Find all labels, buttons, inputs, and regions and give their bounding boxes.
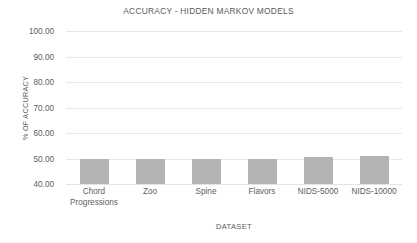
y-axis-tick-label: 40.00: [34, 180, 55, 189]
bar-slot: [346, 31, 402, 184]
y-axis-tick-label: 100.00: [29, 27, 54, 36]
bar-slot: [234, 31, 290, 184]
x-axis-tick-label: Zoo: [122, 187, 178, 208]
y-axis-tick-label: 70.00: [34, 103, 55, 112]
bar-slot: [178, 31, 234, 184]
bar-series: [66, 31, 402, 184]
y-axis-tick-label: 50.00: [34, 154, 55, 163]
x-axis-tick-label: NIDS-10000: [346, 187, 402, 208]
x-axis-tick-label: Spine: [178, 187, 234, 208]
x-axis-tick-labels: Chord ProgressionsZooSpineFlavorsNIDS-50…: [66, 187, 402, 208]
chart-title: ACCURACY - HIDDEN MARKOV MODELS: [0, 6, 417, 16]
y-axis-tick-label: 60.00: [34, 129, 55, 138]
plot-area: [66, 31, 402, 184]
bar[interactable]: [80, 159, 109, 185]
bar-slot: [122, 31, 178, 184]
bar-slot: [290, 31, 346, 184]
y-axis-tick-label: 80.00: [34, 78, 55, 87]
bar[interactable]: [136, 159, 165, 185]
x-axis-tick-label: Flavors: [234, 187, 290, 208]
y-axis-tick-labels: 100.0090.0080.0070.0060.0050.0040.00: [0, 31, 60, 184]
bar[interactable]: [360, 156, 389, 184]
y-axis-tick-label: 90.00: [34, 52, 55, 61]
bar[interactable]: [304, 157, 333, 184]
x-axis-title: DATASET: [66, 222, 402, 231]
gridline: [66, 184, 402, 185]
x-axis-tick-label: Chord Progressions: [66, 187, 122, 208]
bar-slot: [66, 31, 122, 184]
bar[interactable]: [192, 159, 221, 185]
bar[interactable]: [248, 159, 277, 185]
x-axis-tick-label: NIDS-5000: [290, 187, 346, 208]
chart-container: ACCURACY - HIDDEN MARKOV MODELS % OF ACC…: [0, 0, 417, 243]
